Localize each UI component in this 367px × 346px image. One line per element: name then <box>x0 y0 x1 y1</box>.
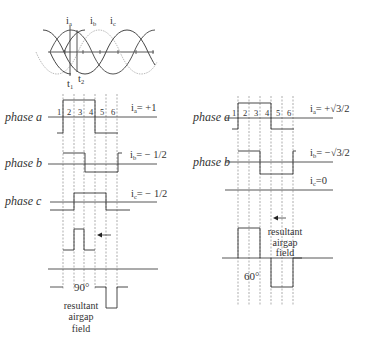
left-panel: phase a 1 2 3 4 5 6 ia= +1 phase b ib= −… <box>4 94 167 334</box>
right-phase-b-waveform <box>238 151 296 174</box>
ib-label: ib <box>90 15 96 27</box>
right-field-direction-arrow-icon <box>273 216 286 221</box>
left-caption-line-2: airgap <box>69 311 94 322</box>
right-interval-numbers: 1 2 3 4 5 6 <box>232 108 291 118</box>
right-phase-a-label: phase a <box>192 110 230 124</box>
left-ic-value: ic= − 1/2 <box>131 188 167 200</box>
svg-text:5: 5 <box>100 107 104 117</box>
left-phase-b-label: phase b <box>4 156 42 170</box>
right-ib-value: ib= −√3/2 <box>310 147 350 159</box>
svg-text:6: 6 <box>287 108 291 118</box>
left-interval-gridlines <box>63 94 117 290</box>
left-caption-line-1: resultant <box>64 300 99 311</box>
right-phase-a-waveform <box>232 103 294 129</box>
right-ia-value: ia= +√3/2 <box>310 103 349 115</box>
left-angle-label: 90° <box>74 281 89 293</box>
t2-label: t2 <box>78 73 84 85</box>
svg-text:3: 3 <box>78 107 82 117</box>
svg-text:5: 5 <box>276 108 280 118</box>
svg-text:4: 4 <box>265 108 270 118</box>
ia-label: ia <box>66 15 72 27</box>
left-resultant-step-waveform <box>63 229 95 250</box>
ic-label: ic <box>110 15 116 27</box>
airgap-field-diagram: ia ib ic t1 t2 phase a 1 2 3 4 5 6 ia= +… <box>0 0 367 346</box>
left-phase-c-waveform <box>50 193 130 210</box>
left-phase-c-label: phase c <box>4 194 42 208</box>
svg-text:6: 6 <box>111 107 115 117</box>
left-caption-line-3: field <box>72 323 90 334</box>
left-phase-b-waveform <box>63 153 122 172</box>
t1-label: t1 <box>67 78 73 90</box>
svg-text:3: 3 <box>254 108 258 118</box>
three-phase-sine-plot: ia ib ic t1 t2 <box>36 15 157 90</box>
right-caption-line-3: field <box>276 247 294 258</box>
left-resultant-negative-pulse <box>95 287 128 308</box>
left-field-direction-arrow-icon <box>97 233 111 238</box>
right-phase-b-label: phase b <box>192 155 230 169</box>
svg-text:2: 2 <box>67 107 71 117</box>
right-angle-label: 60° <box>244 270 259 282</box>
left-ib-value: ib= − 1/2 <box>130 149 167 161</box>
right-resultant-negative-pulse <box>271 258 302 287</box>
svg-text:1: 1 <box>232 108 236 118</box>
svg-text:4: 4 <box>89 107 94 117</box>
left-ia-value: ia= +1 <box>131 102 157 114</box>
right-ic-value: ic=0 <box>310 175 327 187</box>
right-panel: phase a 1 2 3 4 5 6 ia= +√3/2 phase b ib… <box>192 96 350 305</box>
svg-text:2: 2 <box>243 108 247 118</box>
left-interval-numbers: 1 2 3 4 5 6 <box>57 107 115 117</box>
right-caption-line-1: resultant <box>268 226 303 237</box>
svg-text:1: 1 <box>57 107 61 117</box>
left-phase-a-label: phase a <box>4 110 42 124</box>
